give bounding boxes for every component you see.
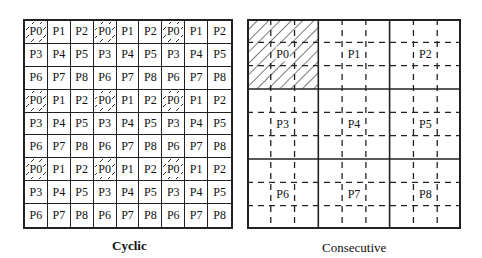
cyclic-cell: P6	[162, 135, 185, 158]
cyclic-cell: P4	[185, 44, 208, 67]
cell-label: P7	[190, 208, 203, 223]
cell-label: P5	[213, 185, 226, 200]
cyclic-cell: P6	[94, 67, 117, 90]
cyclic-cell: P5	[208, 113, 231, 136]
cell-label: P2	[75, 162, 88, 177]
cell-label: P5	[144, 185, 157, 200]
cyclic-cell: P5	[71, 44, 94, 67]
cell-label: P6	[30, 70, 43, 85]
cyclic-cell: P3	[25, 113, 48, 136]
cell-label: P0	[29, 93, 44, 108]
cyclic-cell: P8	[208, 204, 231, 227]
cell-label: P4	[190, 116, 203, 131]
cell-label: P7	[121, 139, 134, 154]
cell-label: P1	[121, 93, 134, 108]
cell-label: P1	[190, 162, 203, 177]
cell-label: P5	[213, 47, 226, 62]
cyclic-cell: P8	[71, 67, 94, 90]
cyclic-cell: P1	[117, 90, 140, 113]
cyclic-cell: P0	[25, 90, 48, 113]
cell-label: P3	[167, 185, 180, 200]
cell-label: P8	[75, 139, 88, 154]
cell-label: P3	[98, 185, 111, 200]
cyclic-cell: P0	[94, 21, 117, 44]
cyclic-cell: P7	[185, 67, 208, 90]
cell-label: P4	[121, 47, 134, 62]
cell-label: P0	[97, 24, 112, 39]
cell-label: P2	[75, 93, 88, 108]
cyclic-cell: P3	[25, 181, 48, 204]
cyclic-caption: Cyclic	[112, 238, 147, 254]
cell-label: P0	[166, 162, 181, 177]
cyclic-cell: P8	[208, 67, 231, 90]
cyclic-cell: P0	[94, 158, 117, 181]
cyclic-cell: P5	[71, 181, 94, 204]
cyclic-cell: P1	[117, 158, 140, 181]
block-label: P3	[275, 117, 290, 132]
cyclic-cell: P7	[48, 204, 71, 227]
cell-label: P5	[213, 116, 226, 131]
cell-label: P3	[167, 47, 180, 62]
cell-label: P7	[190, 70, 203, 85]
cell-label: P8	[213, 208, 226, 223]
cyclic-cell: P3	[94, 113, 117, 136]
cell-label: P2	[144, 93, 157, 108]
cell-label: P1	[121, 24, 134, 39]
cyclic-cell: P6	[94, 204, 117, 227]
cell-label: P8	[213, 139, 226, 154]
cell-label: P6	[98, 70, 111, 85]
cyclic-cell: P6	[162, 204, 185, 227]
cell-label: P0	[97, 93, 112, 108]
consecutive-caption: Consecutive	[322, 240, 386, 256]
cell-label: P8	[213, 70, 226, 85]
cell-label: P3	[30, 185, 43, 200]
cell-label: P8	[144, 139, 157, 154]
cyclic-cell: P7	[117, 67, 140, 90]
cyclic-cell: P6	[25, 204, 48, 227]
cyclic-cell: P2	[139, 21, 162, 44]
block-label: P8	[418, 187, 433, 202]
block-label: P4	[347, 117, 362, 132]
cyclic-cell: P4	[117, 181, 140, 204]
cyclic-cell: P4	[185, 181, 208, 204]
cell-label: P7	[52, 70, 65, 85]
cell-label: P4	[190, 47, 203, 62]
cyclic-cell: P5	[139, 113, 162, 136]
cyclic-cell: P4	[117, 113, 140, 136]
cyclic-cell: P7	[185, 135, 208, 158]
cell-label: P4	[121, 116, 134, 131]
cyclic-cell: P0	[25, 158, 48, 181]
cell-label: P6	[167, 70, 180, 85]
block-label: P2	[418, 47, 433, 62]
cell-label: P4	[52, 47, 65, 62]
cell-label: P4	[190, 185, 203, 200]
cyclic-cell: P3	[94, 181, 117, 204]
block-label: P0	[275, 47, 290, 62]
cell-label: P3	[167, 116, 180, 131]
block-label: P5	[418, 117, 433, 132]
cyclic-cell: P5	[71, 113, 94, 136]
cell-label: P1	[52, 162, 65, 177]
cell-label: P7	[121, 208, 134, 223]
cyclic-cell: P7	[117, 204, 140, 227]
cell-label: P7	[52, 208, 65, 223]
cyclic-cell: P0	[25, 21, 48, 44]
cyclic-cell: P5	[208, 44, 231, 67]
cyclic-grid: P0P1P2P0P1P2P0P1P2P3P4P5P3P4P5P3P4P5P6P7…	[23, 19, 233, 229]
cyclic-cell: P4	[48, 181, 71, 204]
cyclic-cell: P8	[139, 67, 162, 90]
cyclic-cell: P0	[162, 90, 185, 113]
cell-label: P6	[30, 208, 43, 223]
cyclic-cell: P7	[48, 135, 71, 158]
cell-label: P6	[167, 208, 180, 223]
cell-label: P5	[75, 116, 88, 131]
cyclic-cell: P7	[48, 67, 71, 90]
cyclic-cell: P5	[139, 44, 162, 67]
cell-label: P2	[213, 162, 226, 177]
cyclic-cell: P4	[48, 44, 71, 67]
cell-label: P6	[167, 139, 180, 154]
cyclic-cell: P2	[71, 90, 94, 113]
cyclic-cell: P8	[139, 135, 162, 158]
cell-label: P4	[52, 116, 65, 131]
cyclic-cell: P1	[185, 158, 208, 181]
